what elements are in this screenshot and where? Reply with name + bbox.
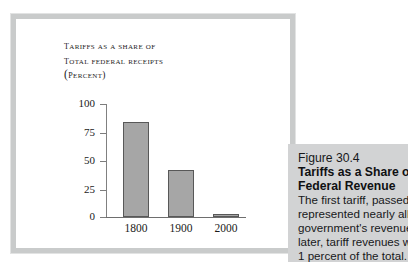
caption-title-line-1: Tariffs as a Share of <box>298 165 408 179</box>
caption-body-line-5: 1 percent of the total. <box>298 249 408 262</box>
y-tick-100 <box>100 104 106 105</box>
x-tick-label-1900: 1900 <box>158 222 204 234</box>
bar-1900 <box>168 170 194 217</box>
caption-figure-number: Figure 30.4 <box>298 151 408 165</box>
figure-screenshot: Tariffs as a share of total federal rece… <box>0 0 408 274</box>
y-tick-label-25: 25 <box>55 183 95 195</box>
chart-title-line-1: Tariffs as a share of <box>64 39 279 54</box>
figure-frame: Tariffs as a share of total federal rece… <box>10 13 296 254</box>
caption-body: The first tariff, passed represented nea… <box>298 193 408 262</box>
chart-title-line-3: (percent) <box>64 68 279 83</box>
y-tick-25 <box>100 190 106 191</box>
caption-panel: Figure 30.4 Tariffs as a Share of Federa… <box>288 144 408 262</box>
y-tick-label-0: 0 <box>55 210 95 222</box>
x-tick-label-2000: 2000 <box>203 222 249 234</box>
x-tick-label-1800: 1800 <box>113 222 159 234</box>
chart-title-line-2: total federal receipts <box>64 54 279 69</box>
y-tick-label-75: 75 <box>55 126 95 138</box>
y-tick-label-100: 100 <box>55 97 95 109</box>
caption-body-line-3: government's revenue <box>298 221 408 235</box>
caption-title-line-2: Federal Revenue <box>298 179 408 193</box>
y-axis-line <box>106 104 107 218</box>
caption-body-line-2: represented nearly all <box>298 207 408 221</box>
y-tick-75 <box>100 133 106 134</box>
x-axis-line <box>106 217 246 218</box>
bar-chart-plot-area: 100 75 50 25 0 1800 1900 2000 <box>96 104 246 234</box>
caption-body-line-1: The first tariff, passed <box>298 193 408 207</box>
y-tick-50 <box>100 161 106 162</box>
bar-1800 <box>123 122 149 217</box>
caption-body-line-4: later, tariff revenues w <box>298 235 408 249</box>
chart-title: Tariffs as a share of total federal rece… <box>64 39 279 83</box>
y-tick-0 <box>100 217 106 218</box>
bar-2000 <box>213 214 239 217</box>
y-tick-label-50: 50 <box>55 154 95 166</box>
